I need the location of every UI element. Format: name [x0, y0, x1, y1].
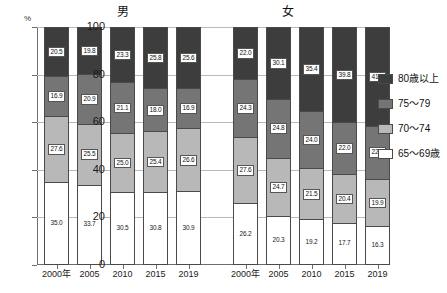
segment-female-2010-s80: 35.4 — [299, 27, 324, 111]
legend-item-s75[interactable]: 75～79 — [378, 98, 447, 110]
segment-female-2000年-s70: 27.6 — [233, 137, 258, 203]
segment-value-label: 27.6 — [237, 165, 254, 176]
segment-female-2010-s75: 24.0 — [299, 111, 324, 168]
legend-item-s80[interactable]: 80歳以上 — [378, 73, 447, 85]
y-axis-label-80: 80 — [79, 69, 105, 80]
group-title-male: 男 — [93, 6, 153, 18]
y-axis-label-20: 20 — [79, 211, 105, 222]
y-axis-label-40: 40 — [79, 164, 105, 175]
segment-female-2019-s70: 19.9 — [365, 179, 390, 226]
segment-male-2000年-s65: 35.0 — [44, 182, 69, 265]
segment-value-label: 25.4 — [147, 157, 164, 168]
segment-value-label: 17.7 — [339, 240, 351, 247]
segment-value-label: 22.0 — [336, 143, 353, 154]
segment-male-2015-s65: 30.8 — [143, 192, 168, 265]
segment-value-label: 26.6 — [180, 155, 197, 166]
segment-female-2005-s70: 24.7 — [266, 158, 291, 217]
segment-value-label: 25.8 — [147, 53, 164, 64]
group-title-female: 女 — [258, 6, 318, 18]
bar-female-2005: 30.124.824.720.3 — [266, 27, 291, 265]
y-axis-label-100: 100 — [79, 21, 105, 32]
segment-female-2000年-s75: 24.3 — [233, 79, 258, 137]
segment-value-label: 35.4 — [303, 64, 320, 75]
bar-female-2010: 35.424.021.519.2 — [299, 27, 324, 265]
segment-female-2005-s80: 30.1 — [266, 27, 291, 99]
segment-female-2000年-s80: 22.0 — [233, 27, 258, 79]
y-tick-0 — [32, 265, 37, 266]
segment-male-2010-s70: 25.0 — [110, 133, 135, 193]
segment-value-label: 24.0 — [303, 135, 320, 146]
legend-swatch-s80 — [378, 74, 393, 84]
segment-value-label: 21.5 — [303, 189, 320, 200]
segment-value-label: 30.8 — [150, 225, 162, 232]
segment-male-2015-s80: 25.8 — [143, 27, 168, 88]
segment-value-label: 23.3 — [114, 50, 131, 61]
bar-male-2005: 19.820.925.533.7 — [77, 27, 102, 265]
y-tick-80 — [32, 75, 37, 76]
segment-female-2015-s75: 22.0 — [332, 122, 357, 174]
segment-value-label: 27.6 — [48, 144, 65, 155]
y-tick-60 — [32, 122, 37, 123]
segment-female-2010-s70: 21.5 — [299, 168, 324, 219]
segment-value-label: 19.2 — [306, 239, 318, 246]
segment-value-label: 30.1 — [270, 58, 287, 69]
segment-male-2015-s75: 18.0 — [143, 88, 168, 131]
segment-male-2000年-s70: 27.6 — [44, 116, 69, 182]
y-tick-100 — [32, 27, 37, 28]
segment-value-label: 20.5 — [48, 47, 65, 58]
segment-value-label: 30.9 — [183, 225, 195, 232]
legend-swatch-s70 — [378, 124, 393, 134]
segment-female-2010-s65: 19.2 — [299, 219, 324, 265]
segment-value-label: 24.8 — [270, 123, 287, 134]
legend-swatch-s75 — [378, 99, 393, 109]
segment-female-2015-s65: 17.7 — [332, 223, 357, 265]
y-axis-line — [37, 27, 38, 265]
segment-value-label: 35.0 — [51, 220, 63, 227]
legend-item-s65[interactable]: 65～69歳 — [378, 148, 447, 160]
legend-label-s70: 70～74 — [398, 124, 430, 134]
bar-female-2015: 39.822.020.417.7 — [332, 27, 357, 265]
y-tick-20 — [32, 217, 37, 218]
segment-male-2000年-s80: 20.5 — [44, 27, 69, 76]
bar-female-2000年: 22.024.327.626.2 — [233, 27, 258, 265]
y-axis-label-60: 60 — [79, 116, 105, 127]
y-tick-40 — [32, 170, 37, 171]
segment-value-label: 24.7 — [270, 182, 287, 193]
bar-male-2010: 23.321.125.030.5 — [110, 27, 135, 265]
segment-female-2015-s80: 39.8 — [332, 27, 357, 122]
stacked-bar-chart: % 男 女 20.516.927.635.019.820.925.533.723… — [0, 0, 447, 293]
segment-value-label: 20.4 — [336, 194, 353, 205]
segment-value-label: 16.9 — [180, 103, 197, 114]
legend-label-s75: 75～79 — [398, 99, 430, 109]
legend-item-s70[interactable]: 70～74 — [378, 123, 447, 135]
segment-male-2015-s70: 25.4 — [143, 131, 168, 191]
bar-male-2015: 25.818.025.430.8 — [143, 27, 168, 265]
segment-value-label: 30.5 — [117, 225, 129, 232]
legend-label-s80: 80歳以上 — [398, 74, 439, 84]
segment-value-label: 19.8 — [81, 46, 98, 57]
segment-male-2005-s65: 33.7 — [77, 185, 102, 265]
segment-female-2005-s65: 20.3 — [266, 216, 291, 264]
segment-value-label: 16.9 — [48, 91, 65, 102]
legend-label-s65: 65～69歳 — [398, 149, 440, 159]
bar-male-2000年: 20.516.927.635.0 — [44, 27, 69, 265]
segment-female-2000年-s65: 26.2 — [233, 203, 258, 265]
segment-male-2010-s80: 23.3 — [110, 27, 135, 82]
segment-value-label: 20.9 — [81, 94, 98, 105]
segment-male-2019-s65: 30.9 — [176, 191, 201, 265]
bar-male-2019: 25.616.926.630.9 — [176, 27, 201, 265]
segment-value-label: 25.5 — [81, 149, 98, 160]
legend-swatch-s65 — [378, 149, 393, 159]
segment-female-2005-s75: 24.8 — [266, 99, 291, 158]
segment-male-2019-s80: 25.6 — [176, 27, 201, 88]
segment-male-2005-s70: 25.5 — [77, 124, 102, 185]
segment-value-label: 25.6 — [180, 53, 197, 64]
segment-male-2010-s75: 21.1 — [110, 82, 135, 132]
segment-value-label: 18.0 — [147, 105, 164, 116]
segment-male-2019-s70: 26.6 — [176, 128, 201, 191]
segment-male-2010-s65: 30.5 — [110, 192, 135, 265]
segment-value-label: 19.9 — [369, 198, 386, 209]
segment-female-2019-s65: 16.3 — [365, 226, 390, 265]
y-axis-unit: % — [24, 14, 31, 23]
segment-male-2019-s75: 16.9 — [176, 88, 201, 128]
